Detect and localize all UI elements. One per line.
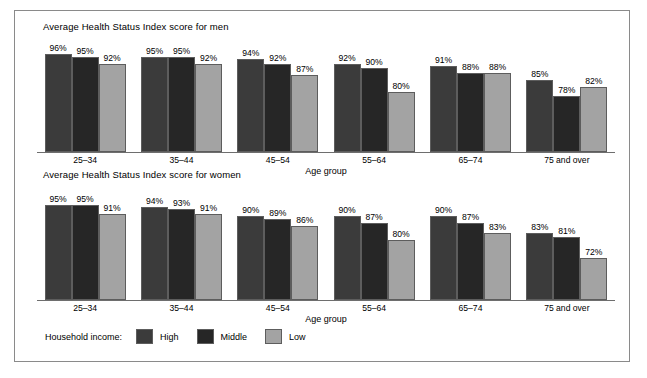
bar-high: 96% [45, 54, 72, 152]
bar-low: 72% [580, 258, 607, 300]
bar-high: 95% [141, 57, 168, 152]
bar-value-label: 82% [585, 76, 602, 86]
bar-value-label: 87% [366, 212, 383, 222]
bar-value-label: 72% [585, 247, 602, 257]
x-tick-label: 45–54 [230, 303, 326, 313]
legend-swatch-low [265, 329, 282, 344]
bar-value-label: 94% [146, 196, 163, 206]
x-tick-label: 25–34 [37, 303, 133, 313]
bar-low: 88% [484, 73, 511, 152]
bar-middle: 78% [553, 96, 580, 152]
bar-value-label: 91% [200, 203, 217, 213]
bar-high: 83% [526, 233, 553, 300]
bar-low: 82% [580, 87, 607, 152]
bar-value-label: 94% [242, 48, 259, 58]
x-tick-label: 55–64 [326, 303, 422, 313]
bar-value-label: 81% [558, 226, 575, 236]
bar-value-label: 87% [462, 212, 479, 222]
bar-value-label: 91% [104, 203, 121, 213]
bar-value-label: 88% [462, 62, 479, 72]
bar-middle: 81% [553, 237, 580, 300]
bar-high: 85% [526, 80, 553, 152]
bar-value-label: 89% [269, 208, 286, 218]
bar-group-bars: 90%87%83% [430, 183, 511, 300]
bar-middle: 95% [72, 57, 99, 152]
x-tick-label: 65–74 [422, 155, 518, 165]
bar-value-label: 80% [393, 229, 410, 239]
bar-group-bars: 95%95%92% [141, 35, 222, 152]
legend-label-low: Low [289, 332, 306, 342]
bar-value-label: 92% [104, 53, 121, 63]
bar-group-bars: 96%95%92% [45, 35, 126, 152]
bar-high: 90% [237, 216, 264, 300]
bar-value-label: 96% [50, 43, 67, 53]
bar-value-label: 78% [558, 85, 575, 95]
bar-high: 94% [237, 59, 264, 152]
chart-panel-women: Average Health Status Index score for wo… [15, 169, 631, 319]
x-axis-line [37, 300, 615, 301]
legend-entry-middle: Middle [197, 329, 248, 344]
chart-panel-men: Average Health Status Index score for me… [15, 21, 631, 171]
bar-high: 91% [430, 66, 457, 152]
plot-area-women: Age group 95%95%91%25–3494%93%91%35–4490… [37, 183, 615, 301]
bar-value-label: 95% [173, 46, 190, 56]
bar-value-label: 88% [489, 62, 506, 72]
x-tick-label: 35–44 [133, 303, 229, 313]
bar-high: 90% [334, 216, 361, 300]
bar-low: 92% [99, 64, 126, 152]
bar-value-label: 95% [77, 46, 94, 56]
bar-value-label: 83% [489, 222, 506, 232]
bar-value-label: 83% [531, 222, 548, 232]
x-axis-title-women: Age group [37, 314, 615, 324]
bar-group-bars: 90%89%86% [237, 183, 318, 300]
bar-middle: 93% [168, 209, 195, 300]
bar-value-label: 85% [531, 69, 548, 79]
bar-low: 91% [195, 214, 222, 300]
bar-group-bars: 90%87%80% [334, 183, 415, 300]
bar-middle: 95% [72, 205, 99, 300]
bar-value-label: 95% [146, 46, 163, 56]
legend-title: Household income: [45, 332, 122, 342]
bar-value-label: 95% [77, 194, 94, 204]
bar-group-bars: 95%95%91% [45, 183, 126, 300]
bar-low: 80% [388, 92, 415, 152]
bar-low: 92% [195, 64, 222, 152]
bar-middle: 92% [264, 64, 291, 152]
bar-group-bars: 94%93%91% [141, 183, 222, 300]
x-tick-label: 35–44 [133, 155, 229, 165]
bar-value-label: 95% [50, 194, 67, 204]
bar-middle: 90% [361, 68, 388, 152]
bar-value-label: 90% [435, 205, 452, 215]
bar-middle: 87% [457, 223, 484, 300]
bar-group-bars: 85%78%82% [526, 35, 607, 152]
legend-label-high: High [160, 332, 179, 342]
bar-high: 92% [334, 64, 361, 152]
bar-low: 87% [291, 75, 318, 152]
bar-value-label: 86% [296, 215, 313, 225]
bar-value-label: 90% [366, 57, 383, 67]
bar-middle: 89% [264, 219, 291, 300]
legend-entry-high: High [136, 329, 179, 344]
x-tick-label: 65–74 [422, 303, 518, 313]
bar-group-bars: 83%81%72% [526, 183, 607, 300]
x-tick-label: 25–34 [37, 155, 133, 165]
chart-title-men: Average Health Status Index score for me… [43, 21, 229, 32]
bar-high: 95% [45, 205, 72, 300]
bar-value-label: 90% [242, 205, 259, 215]
plot-area-men: Age group 96%95%92%25–3495%95%92%35–4494… [37, 35, 615, 153]
chart-title-women: Average Health Status Index score for wo… [43, 169, 241, 180]
bar-value-label: 92% [200, 53, 217, 63]
x-tick-label: 75 and over [519, 303, 615, 313]
legend-entry-low: Low [265, 329, 306, 344]
bar-high: 90% [430, 216, 457, 300]
bar-value-label: 80% [393, 81, 410, 91]
bar-value-label: 93% [173, 198, 190, 208]
legend-swatch-middle [197, 329, 214, 344]
legend-swatch-high [136, 329, 153, 344]
bar-group-bars: 91%88%88% [430, 35, 511, 152]
legend: Household income: HighMiddleLow [45, 329, 324, 344]
bar-group-bars: 92%90%80% [334, 35, 415, 152]
bar-high: 94% [141, 207, 168, 300]
legend-label-middle: Middle [221, 332, 248, 342]
x-axis-line [37, 152, 615, 153]
